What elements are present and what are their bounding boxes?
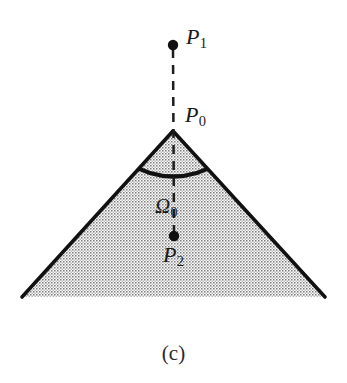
label-p1-base: P <box>186 24 199 49</box>
point-marker-p2 <box>169 231 179 241</box>
label-p0-sub: 0 <box>199 113 206 129</box>
figure-container: P1 P0 Ω0 P2 (c) <box>0 0 347 383</box>
label-p0: P0 <box>185 104 206 126</box>
label-omega0: Ω0 <box>155 196 177 217</box>
label-p1-sub: 1 <box>200 35 207 51</box>
label-p2-sub: 2 <box>177 253 184 269</box>
point-marker-p1 <box>168 40 178 50</box>
label-p2-base: P <box>163 242 176 267</box>
label-omega0-base: Ω <box>155 194 170 218</box>
label-p0-base: P <box>185 102 198 127</box>
label-p2: P2 <box>163 244 184 266</box>
label-p1: P1 <box>186 26 207 48</box>
diagram-canvas <box>0 0 347 383</box>
label-omega0-sub: 0 <box>170 205 177 220</box>
figure-caption: (c) <box>0 341 347 366</box>
